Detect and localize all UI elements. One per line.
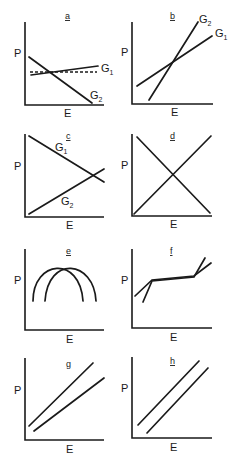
x-axis-label: E (170, 331, 177, 343)
x-axis-label: E (170, 441, 177, 453)
label-g1: G1 (215, 27, 228, 41)
panel-title: g (66, 359, 71, 369)
x-axis-label: E (66, 333, 73, 345)
panel-title: b (170, 11, 175, 21)
x-axis-label: E (171, 106, 178, 118)
panel-b: b P E G2 G1 (121, 11, 228, 118)
curve-arch-1 (33, 268, 83, 301)
label-g2: G2 (199, 13, 212, 27)
y-axis-label: P (121, 159, 128, 171)
label-g1: G1 (55, 141, 68, 155)
panel-a: a P E G1 G2 (14, 11, 114, 119)
panel-d: d P E (121, 131, 212, 230)
curve-g1 (31, 66, 98, 75)
curve-g2 (29, 169, 104, 214)
label-g2: G2 (61, 195, 74, 209)
curve-upper (138, 361, 199, 425)
panel-title: c (66, 131, 71, 141)
label-g1: G1 (101, 62, 114, 76)
x-axis-label: E (170, 218, 177, 230)
axes (25, 249, 104, 330)
x-axis-label: E (66, 219, 73, 231)
y-axis-label: P (14, 47, 21, 59)
y-axis-label: P (121, 382, 128, 394)
x-axis-label: E (66, 443, 73, 455)
y-axis-label: P (121, 46, 128, 58)
curve-g1 (137, 36, 212, 86)
y-axis-label: P (121, 274, 128, 286)
curve-lower (147, 368, 208, 433)
axes (25, 358, 104, 440)
panel-g: g P E (14, 358, 104, 455)
panel-c: c P E G1 G2 (14, 131, 104, 231)
curve-g2 (29, 57, 92, 103)
x-axis-label: E (64, 107, 71, 119)
panel-title: h (170, 356, 175, 366)
axes (132, 357, 212, 438)
panel-title: f (170, 246, 173, 256)
label-g2: G2 (90, 89, 103, 103)
panel-f: f P E (121, 246, 212, 343)
panel-title: d (170, 131, 175, 141)
panel-title: a (65, 11, 70, 21)
y-axis-label: P (14, 384, 21, 396)
figure-canvas: a P E G1 G2 b P E G2 G1 c P E G1 G2 d P … (0, 0, 234, 467)
panel-e: e P E (14, 246, 104, 345)
panel-title: e (66, 246, 71, 256)
panel-h: h P E (121, 356, 212, 453)
y-axis-label: P (14, 274, 21, 286)
y-axis-label: P (14, 160, 21, 172)
